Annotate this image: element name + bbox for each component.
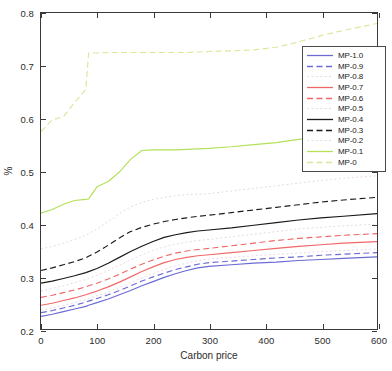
x-tick-label: 400 [258,335,274,346]
series-line-mp-0-6 [41,234,377,298]
x-tick-mark [266,13,267,18]
x-tick-mark [323,13,324,18]
x-tick-mark [41,324,42,329]
x-tick-mark [379,324,380,329]
chart-figure: 0.20.30.40.50.60.70.8 010020030040050060… [0,0,392,371]
x-tick-label: 600 [371,335,387,346]
y-tick-mark [41,331,46,332]
legend-item-label: MP-0.7 [338,83,363,92]
x-tick-label: 200 [146,335,162,346]
y-tick-mark [41,66,46,67]
legend-item-label: MP-0.3 [338,126,363,135]
legend-item-label: MP-0.2 [338,136,363,145]
y-tick-mark [372,225,377,226]
y-tick-label: 0.7 [20,61,34,72]
y-tick-label: 0.3 [20,273,34,284]
legend-item-label: MP-1.0 [338,51,363,60]
legend-item: MP-0.5 [306,103,382,114]
x-tick-mark [210,324,211,329]
legend-item: MP-0.2 [306,136,382,147]
x-tick-label: 500 [315,335,331,346]
legend-item: MP-0 [306,157,382,168]
x-tick-mark [210,13,211,18]
series-line-mp-0-8 [41,249,377,310]
legend-item: MP-1.0 [306,50,382,61]
y-tick-mark [372,13,377,14]
x-tick-mark [379,13,380,18]
legend-item: MP-0.4 [306,114,382,125]
legend-line-sample [306,126,334,135]
x-tick-label: 100 [89,335,105,346]
legend-item-label: MP-0.5 [338,104,363,113]
legend-line-sample [306,147,334,156]
legend-item-label: MP-0.8 [338,72,363,81]
legend-item: MP-0.1 [306,146,382,157]
x-tick-mark [323,324,324,329]
y-tick-label: 0.5 [20,167,34,178]
legend-item-label: MP-0.1 [338,147,363,156]
legend-line-sample [306,72,334,81]
legend-line-sample [306,104,334,113]
y-tick-mark [372,172,377,173]
x-tick-label: 0 [38,335,43,346]
y-axis-title: % [3,167,14,176]
legend-line-sample [306,115,334,124]
legend-item-label: MP-0.6 [338,94,363,103]
y-tick-mark [372,331,377,332]
legend-item-label: MP-0.4 [338,115,363,124]
legend-item: MP-0.3 [306,125,382,136]
y-tick-mark [41,119,46,120]
y-tick-mark [41,278,46,279]
legend-item-label: MP-0.9 [338,62,363,71]
y-tick-mark [372,278,377,279]
y-tick-label: 0.6 [20,114,34,125]
chart-legend: MP-1.0MP-0.9MP-0.8MP-0.7MP-0.6MP-0.5MP-0… [302,46,386,172]
x-tick-label: 300 [202,335,218,346]
y-tick-label: 0.4 [20,220,34,231]
x-tick-mark [97,13,98,18]
legend-item: MP-0.6 [306,93,382,104]
y-tick-label: 0.8 [20,8,34,19]
x-tick-mark [154,324,155,329]
legend-line-sample [306,62,334,71]
legend-item: MP-0.8 [306,71,382,82]
legend-line-sample [306,94,334,103]
series-line-mp-1-0 [41,257,377,317]
legend-item-label: MP-0 [338,158,357,167]
legend-line-sample [306,83,334,92]
y-tick-label: 0.2 [20,326,34,337]
y-tick-mark [41,172,46,173]
legend-line-sample [306,51,334,60]
y-tick-mark [41,225,46,226]
x-tick-mark [266,324,267,329]
x-tick-mark [97,324,98,329]
x-tick-mark [41,13,42,18]
legend-line-sample [306,158,334,167]
series-line-mp-0-5 [41,224,377,291]
x-tick-mark [154,13,155,18]
legend-item: MP-0.7 [306,82,382,93]
series-line-mp-0-2 [41,176,377,249]
legend-line-sample [306,136,334,145]
x-axis-title: Carbon price [180,350,237,361]
legend-item: MP-0.9 [306,61,382,72]
series-line-mp-0-9 [41,253,377,313]
